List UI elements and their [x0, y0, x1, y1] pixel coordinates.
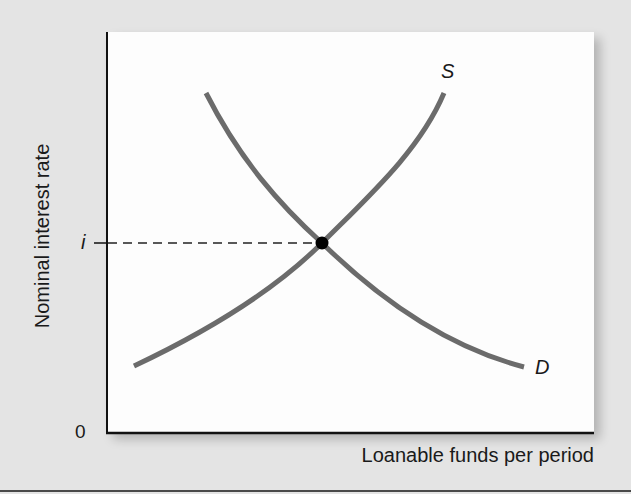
- demand-curve: [206, 93, 524, 367]
- chart-canvas: [0, 0, 631, 494]
- origin-label: 0: [75, 421, 86, 443]
- supply-curve-label: S: [441, 60, 454, 83]
- x-axis-label: Loanable funds per period: [362, 444, 594, 467]
- supply-curve: [134, 93, 444, 366]
- demand-curve-label: D: [535, 356, 549, 379]
- y-axis-label: Nominal interest rate: [31, 144, 54, 329]
- bottom-divider: [0, 490, 631, 492]
- equilibrium-point: [316, 237, 329, 250]
- equilibrium-rate-label: i: [81, 231, 85, 254]
